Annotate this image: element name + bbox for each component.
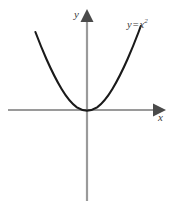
- equation-exponent: 2: [144, 17, 148, 25]
- function-graph-figure: y x y=x2: [0, 0, 175, 211]
- x-axis-label: x: [158, 112, 163, 123]
- curve-equation-annotation: y=x2: [127, 18, 148, 30]
- equation-equals-sign: =: [132, 19, 140, 30]
- y-axis-label: y: [74, 9, 79, 20]
- y-axis-arrowhead-icon: [81, 9, 94, 22]
- equation-variable: y: [127, 19, 132, 30]
- parabola-curve: [35, 26, 140, 111]
- graph-canvas: [0, 0, 175, 211]
